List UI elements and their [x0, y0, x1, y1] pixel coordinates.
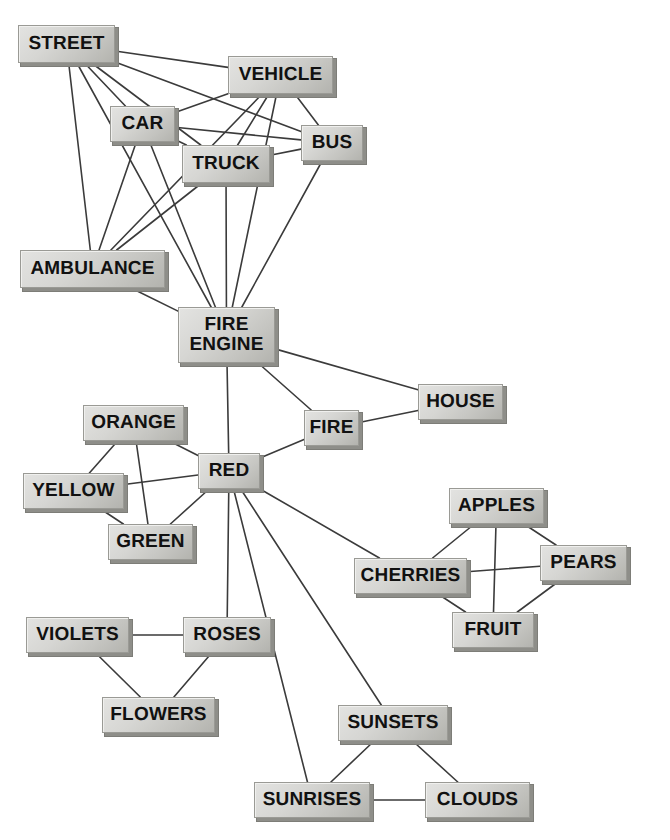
edge-street-vehicle [115, 51, 228, 67]
node-label-fruit: FRUIT [463, 620, 524, 640]
edge-red-orange [169, 441, 198, 455]
edge-vehicle-bus [295, 94, 318, 125]
node-green[interactable]: GREEN [108, 524, 193, 560]
edge-pears-fruit [517, 581, 559, 612]
edge-yellow-green [101, 509, 124, 524]
node-label-house: HOUSE [424, 392, 497, 412]
edge-fire_engine-house [275, 349, 418, 390]
edge-red-green [170, 489, 209, 524]
edge-apples-fruit [494, 524, 496, 612]
node-label-ambulance: AMBULANCE [28, 259, 156, 279]
node-label-car: CAR [120, 114, 166, 134]
node-violets[interactable]: VIOLETS [26, 617, 129, 653]
edge-sunsets-sunrises [331, 741, 374, 782]
node-orange[interactable]: ORANGE [83, 405, 184, 441]
node-label-orange: ORANGE [89, 413, 178, 433]
edge-fire_engine-fire [258, 363, 311, 410]
node-label-truck: TRUCK [190, 154, 262, 174]
node-sunsets[interactable]: SUNSETS [338, 705, 448, 741]
node-sunrises[interactable]: SUNRISES [254, 782, 370, 818]
edge-fire-red [260, 440, 304, 458]
node-label-apples: APPLES [456, 496, 537, 516]
node-label-red: RED [207, 461, 252, 481]
edge-apples-cherries [433, 524, 475, 558]
edge-roses-flowers [174, 653, 212, 697]
node-red[interactable]: RED [198, 453, 260, 489]
node-label-flowers: FLOWERS [108, 705, 208, 725]
node-label-fire: FIRE [307, 418, 355, 438]
node-ambulance[interactable]: AMBULANCE [20, 250, 165, 288]
edge-violets-flowers [96, 653, 141, 697]
node-label-vehicle: VEHICLE [237, 65, 325, 85]
node-label-violets: VIOLETS [34, 625, 121, 645]
edge-fire-house [359, 411, 418, 423]
edge-fire_engine-red [227, 363, 229, 453]
edge-orange-green [136, 441, 148, 524]
edge-street-car [85, 63, 126, 106]
edge-sunsets-clouds [413, 741, 458, 782]
node-label-street: STREET [26, 34, 106, 54]
node-street[interactable]: STREET [18, 25, 115, 63]
node-fire_engine[interactable]: FIRE ENGINE [178, 307, 275, 363]
semantic-network-diagram: STREETVEHICLECARBUSTRUCKAMBULANCEFIRE EN… [0, 0, 670, 840]
edge-car-bus [175, 127, 301, 140]
edge-bus-truck [270, 149, 301, 155]
node-yellow[interactable]: YELLOW [23, 473, 124, 509]
edge-street-ambulance [69, 63, 91, 250]
edge-vehicle-fire_engine [232, 94, 276, 307]
edge-vehicle-car [175, 94, 228, 113]
node-truck[interactable]: TRUCK [182, 145, 270, 183]
node-roses[interactable]: ROSES [183, 617, 271, 653]
node-label-sunsets: SUNSETS [345, 713, 440, 733]
edge-red-yellow [124, 475, 198, 485]
edge-red-sunsets [241, 489, 382, 705]
edge-red-cherries [260, 489, 379, 558]
node-label-clouds: CLOUDS [435, 790, 520, 810]
node-fire[interactable]: FIRE [304, 410, 359, 446]
edge-red-roses [227, 489, 229, 617]
node-apples[interactable]: APPLES [449, 488, 544, 524]
node-pears[interactable]: PEARS [540, 545, 627, 581]
edge-ambulance-fire_engine [131, 288, 178, 311]
edge-orange-yellow [89, 441, 117, 473]
node-car[interactable]: CAR [110, 106, 175, 142]
edge-cherries-fruit [438, 594, 466, 612]
node-label-green: GREEN [114, 532, 187, 552]
edge-vehicle-truck [238, 94, 269, 145]
node-label-roses: ROSES [191, 625, 263, 645]
node-fruit[interactable]: FRUIT [452, 612, 534, 648]
edge-car-ambulance [99, 142, 136, 250]
node-label-yellow: YELLOW [30, 481, 116, 501]
node-flowers[interactable]: FLOWERS [102, 697, 215, 733]
node-label-fire_engine: FIRE ENGINE [187, 315, 265, 355]
node-label-bus: BUS [310, 133, 355, 153]
node-cherries[interactable]: CHERRIES [354, 558, 467, 594]
node-vehicle[interactable]: VEHICLE [228, 56, 333, 94]
edge-cherries-pears [467, 566, 540, 571]
node-label-sunrises: SUNRISES [261, 790, 364, 810]
node-bus[interactable]: BUS [301, 125, 363, 161]
node-label-cherries: CHERRIES [359, 566, 463, 586]
edge-truck-ambulance [117, 183, 202, 250]
node-clouds[interactable]: CLOUDS [425, 782, 530, 818]
node-house[interactable]: HOUSE [418, 384, 503, 420]
node-label-pears: PEARS [548, 553, 618, 573]
edge-apples-pears [524, 524, 556, 545]
